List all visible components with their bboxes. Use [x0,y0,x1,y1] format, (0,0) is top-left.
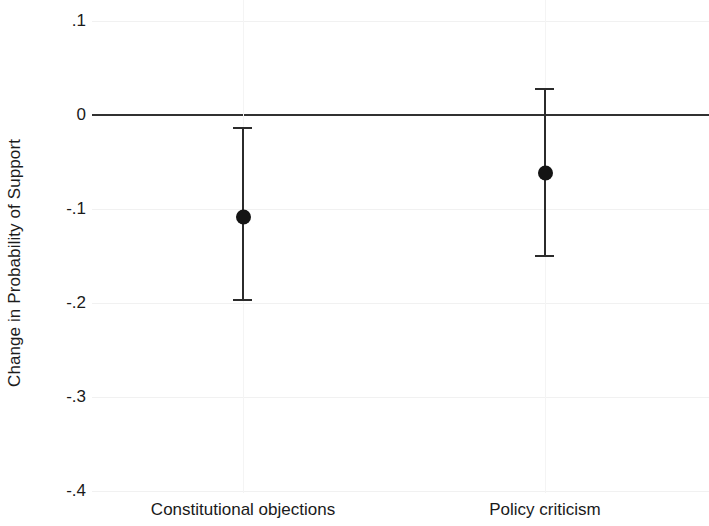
y-tick-label-4: -.3 [38,387,86,407]
y-tick-label-1: 0 [38,105,86,125]
y-tick-label-0: .1 [38,11,86,31]
gridline-y-3 [92,303,709,304]
confidence-interval-cap-lower [535,255,554,257]
x-tick-label-1: Policy criticism [489,500,600,520]
gridline-y-4 [92,397,709,398]
y-tick-label-3: -.2 [38,293,86,313]
x-tick-label-0: Constitutional objections [151,500,335,520]
zero-reference-line [92,114,709,116]
point-estimate-marker [538,166,553,181]
plot-area [92,0,709,526]
y-tick-label-5: -.4 [38,481,86,501]
y-axis-title: Change in Probability of Support [0,0,30,526]
y-axis-tick-labels: .10-.1-.2-.3-.4 [38,0,86,526]
coefficient-plot: Change in Probability of Support .10-.1-… [0,0,709,526]
confidence-interval-cap-lower [233,299,252,301]
gridline-y-0 [92,21,709,22]
y-tick-label-2: -.1 [38,199,86,219]
point-estimate-marker [236,210,251,225]
gridline-y-5 [92,491,709,492]
confidence-interval-cap-upper [233,127,252,129]
gridline-y-2 [92,209,709,210]
confidence-interval-cap-upper [535,88,554,90]
